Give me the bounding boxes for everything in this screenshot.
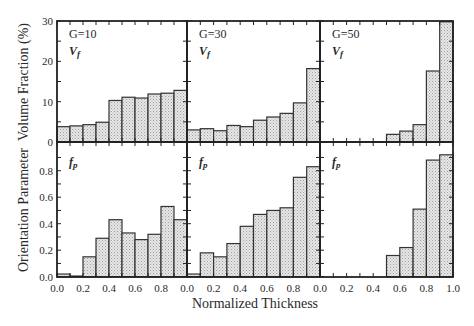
x-tick-label: 0.6 <box>260 282 274 294</box>
histogram-bar <box>293 103 306 142</box>
histogram-bar <box>187 130 200 142</box>
histogram-bar <box>174 220 187 277</box>
panel-top-middle: G=30Vf <box>187 21 320 142</box>
histogram-bar <box>214 131 227 142</box>
histogram-bar <box>135 98 148 142</box>
histogram-bar <box>267 210 280 276</box>
histogram-bar <box>426 71 439 142</box>
histogram-bar <box>96 238 109 276</box>
histogram-bar <box>307 167 320 277</box>
panel-bottom-middle: 0.00.20.40.60.8fp <box>180 142 320 294</box>
histogram-bar <box>227 125 240 142</box>
panel-title: G=50 <box>332 27 359 41</box>
y-axis-title-bottom: Orientation Parameter <box>16 148 31 272</box>
histogram-bar <box>307 69 320 142</box>
x-axis-title: Normalized Thickness <box>192 296 318 311</box>
histogram-bar <box>57 127 70 142</box>
x-tick-label: 0.0 <box>313 282 327 294</box>
figure: 0102030G=10VfG=30VfG=50Vf0.00.20.40.60.8… <box>0 0 474 326</box>
x-tick-label: 0.6 <box>128 282 142 294</box>
y-tick-label: 0.0 <box>39 271 53 283</box>
x-tick-label: 0.0 <box>50 282 64 294</box>
panel-top-left: 0102030G=10Vf <box>42 15 187 148</box>
panel-bottom-right: 0.00.20.40.60.81.0fp <box>313 142 460 294</box>
panel-grid: 0102030G=10VfG=30VfG=50Vf0.00.20.40.60.8… <box>39 15 460 294</box>
x-tick-label: 0.4 <box>366 282 380 294</box>
histogram-bar <box>200 129 213 142</box>
histogram-bar <box>109 220 122 277</box>
histogram-bar <box>83 257 96 277</box>
panel-title: G=30 <box>199 27 226 41</box>
x-tick-label: 0.2 <box>340 282 354 294</box>
x-tick-label: 0.8 <box>420 282 434 294</box>
y-tick-label: 20 <box>42 55 54 67</box>
histogram-bar <box>109 100 122 142</box>
y-tick-label: 0.4 <box>39 218 53 230</box>
panel-variable-label: fp <box>332 155 341 170</box>
panel-bottom-left: 0.00.20.40.60.80.00.20.40.60.8fp <box>39 142 187 294</box>
histogram-bar <box>400 248 413 277</box>
histogram-bar <box>214 257 227 277</box>
x-tick-label: 0.0 <box>180 282 194 294</box>
histogram-bar <box>280 113 293 142</box>
x-tick-label: 0.2 <box>207 282 221 294</box>
y-tick-label: 0.6 <box>39 191 53 203</box>
histogram-bar <box>70 126 83 142</box>
histogram-bar <box>148 234 161 276</box>
panel-variable-label: Vf <box>332 44 344 59</box>
histogram-bar <box>240 226 253 276</box>
y-tick-label: 0 <box>48 136 54 148</box>
x-tick-label: 0.2 <box>76 282 90 294</box>
histogram-bar <box>254 120 267 142</box>
histogram-bar <box>400 131 413 142</box>
histogram-bar <box>267 117 280 142</box>
histogram-bar <box>426 160 439 277</box>
histogram-bar <box>161 206 174 276</box>
panel-variable-label: fp <box>199 155 208 170</box>
panel-variable-label: fp <box>69 155 78 170</box>
histogram-bar <box>148 94 161 142</box>
histogram-bar <box>200 253 213 277</box>
y-tick-label: 30 <box>42 15 54 27</box>
y-axis-labels: Volume Fraction (%) Orientation Paramete… <box>16 23 32 272</box>
histogram-bar <box>387 256 400 277</box>
y-tick-label: 10 <box>42 96 54 108</box>
panel-variable-label: Vf <box>199 44 211 59</box>
histogram-bar <box>122 233 135 277</box>
x-tick-label: 0.8 <box>287 282 301 294</box>
y-tick-label: 0.8 <box>39 165 53 177</box>
x-tick-label: 1.0 <box>446 282 460 294</box>
y-tick-label: 0.2 <box>39 244 53 256</box>
histogram-bar <box>174 90 187 142</box>
panel-title: G=10 <box>69 27 96 41</box>
histogram-bar <box>161 93 174 142</box>
x-tick-label: 0.6 <box>393 282 407 294</box>
histogram-bar <box>413 125 426 142</box>
histogram-bar <box>227 244 240 277</box>
x-tick-label: 0.8 <box>154 282 168 294</box>
y-axis-title-top: Volume Fraction (%) <box>16 23 32 141</box>
histogram-bar <box>135 240 148 277</box>
histogram-bar <box>293 177 306 276</box>
histogram-bar <box>440 155 453 277</box>
panel-top-right: G=50Vf <box>320 21 453 142</box>
histogram-bar <box>240 127 253 142</box>
panel-variable-label: Vf <box>69 44 81 59</box>
x-tick-label: 0.4 <box>233 282 247 294</box>
histogram-bar <box>122 97 135 142</box>
histogram-bar <box>413 209 426 277</box>
histogram-bar <box>96 122 109 142</box>
x-tick-label: 0.4 <box>102 282 116 294</box>
histogram-bar <box>387 134 400 142</box>
histogram-bar <box>254 214 267 276</box>
histogram-bar <box>83 125 96 142</box>
histogram-bar <box>280 208 293 277</box>
